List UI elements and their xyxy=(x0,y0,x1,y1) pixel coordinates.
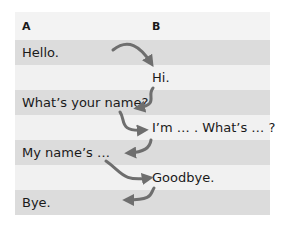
speaker-a-line: Hello. xyxy=(22,40,59,65)
speaker-a-line: Bye. xyxy=(22,190,51,215)
table-row: I’m … . What’s … ? xyxy=(15,115,270,140)
header-b: B xyxy=(152,12,160,42)
table-row: My name’s … xyxy=(15,140,270,165)
header-a: A xyxy=(22,12,31,42)
speaker-a-line: What’s your name? xyxy=(22,90,148,115)
table-row: What’s your name? xyxy=(15,90,270,115)
table-row: Goodbye. xyxy=(15,165,270,190)
header-row: A B xyxy=(15,12,270,40)
speaker-b-line: I’m … . What’s … ? xyxy=(152,115,275,140)
table-row: Hi. xyxy=(15,65,270,90)
table-row: Hello. xyxy=(15,40,270,65)
speaker-a-line: My name’s … xyxy=(22,140,110,165)
dialogue-table: A B Hello. Hi. What’s your name? I’m … .… xyxy=(15,12,270,215)
speaker-b-line: Goodbye. xyxy=(152,165,214,190)
table-row: Bye. xyxy=(15,190,270,215)
speaker-b-line: Hi. xyxy=(152,65,170,90)
